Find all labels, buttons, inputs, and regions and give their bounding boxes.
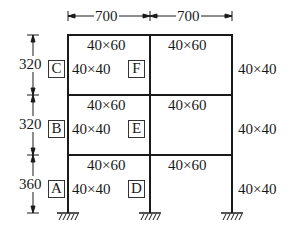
- column-label-mid-left: 40×40: [72, 121, 110, 137]
- beam-label-mid-right: 40×60: [168, 97, 206, 113]
- fixed-support-icon: [139, 213, 161, 220]
- fixed-support-icon: [221, 213, 243, 220]
- node-f-label: F: [128, 60, 145, 78]
- column-label-bot-left: 40×40: [72, 181, 110, 197]
- frame-diagram: [0, 0, 298, 239]
- column-label-top-left: 40×40: [72, 61, 110, 77]
- arrow-head-icon: [225, 14, 232, 18]
- fixed-support-icon: [57, 213, 79, 220]
- node-e-label: E: [128, 120, 145, 138]
- node-c-label: C: [48, 60, 65, 78]
- span-left-label: 700: [94, 8, 119, 24]
- beam-label-top-right: 40×60: [168, 37, 206, 53]
- beam-label-bot-left: 40×60: [87, 157, 125, 173]
- column-label-top-right: 40×40: [238, 61, 276, 77]
- beam-label-mid-left: 40×60: [87, 97, 125, 113]
- column-label-bot-right: 40×40: [238, 181, 276, 197]
- node-a-label: A: [48, 180, 65, 198]
- story-height-bottom-label: 360: [18, 176, 43, 192]
- story-height-middle-label: 320: [18, 116, 43, 132]
- beam-label-top-left: 40×60: [87, 37, 125, 53]
- arrow-head-icon: [68, 14, 75, 18]
- beam-label-bot-right: 40×60: [168, 157, 206, 173]
- node-b-label: B: [48, 120, 65, 138]
- column-label-mid-right: 40×40: [238, 121, 276, 137]
- arrow-head-icon: [150, 14, 157, 18]
- span-right-label: 700: [176, 8, 201, 24]
- story-height-top-label: 320: [18, 56, 43, 72]
- node-d-label: D: [128, 180, 145, 198]
- span-dimension-line: [68, 11, 232, 21]
